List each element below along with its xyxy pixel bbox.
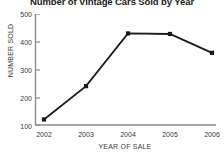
x-tick-label-2002: 2002 [24,131,64,138]
data-point-2004 [126,31,130,35]
x-tick-label-2003: 2003 [66,131,106,138]
x-tick-label-2004: 2004 [108,131,148,138]
x-axis-tick-labels: 2002 2003 2004 2005 2006 [34,131,216,143]
x-tick-label-2006: 2006 [192,131,224,138]
axis-spine [36,14,217,125]
y-tick-label-100: 100 [6,123,32,130]
y-tick-label-500: 500 [6,11,32,18]
data-line-series [44,33,212,119]
y-tick-label-200: 200 [6,95,32,102]
plot-area [34,14,216,126]
data-point-markers [42,31,214,121]
data-point-2005 [168,32,172,36]
chart-title: Number of Vintage Cars Sold by Year [0,0,224,7]
data-point-2002 [42,117,46,121]
line-chart-svg [34,14,216,126]
x-axis-label: YEAR OF SALE [34,143,216,150]
chart-figure: Number of Vintage Cars Sold by Year 500 … [0,0,224,157]
data-point-2003 [84,84,88,88]
data-point-2006 [210,51,214,55]
x-tick-label-2005: 2005 [150,131,190,138]
y-axis-label: NUMBER SOLD [7,19,14,83]
